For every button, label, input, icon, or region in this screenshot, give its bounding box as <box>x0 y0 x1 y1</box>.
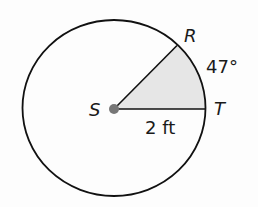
shaded-sector <box>114 45 205 110</box>
angle-label: 47° <box>206 58 238 76</box>
label-r: R <box>184 27 197 45</box>
radius-label: 2 ft <box>145 119 175 137</box>
label-s: S <box>89 101 100 119</box>
diagram-canvas: R 47° T S 2 ft <box>0 0 258 207</box>
label-t: T <box>214 100 225 118</box>
center-point <box>109 104 119 114</box>
